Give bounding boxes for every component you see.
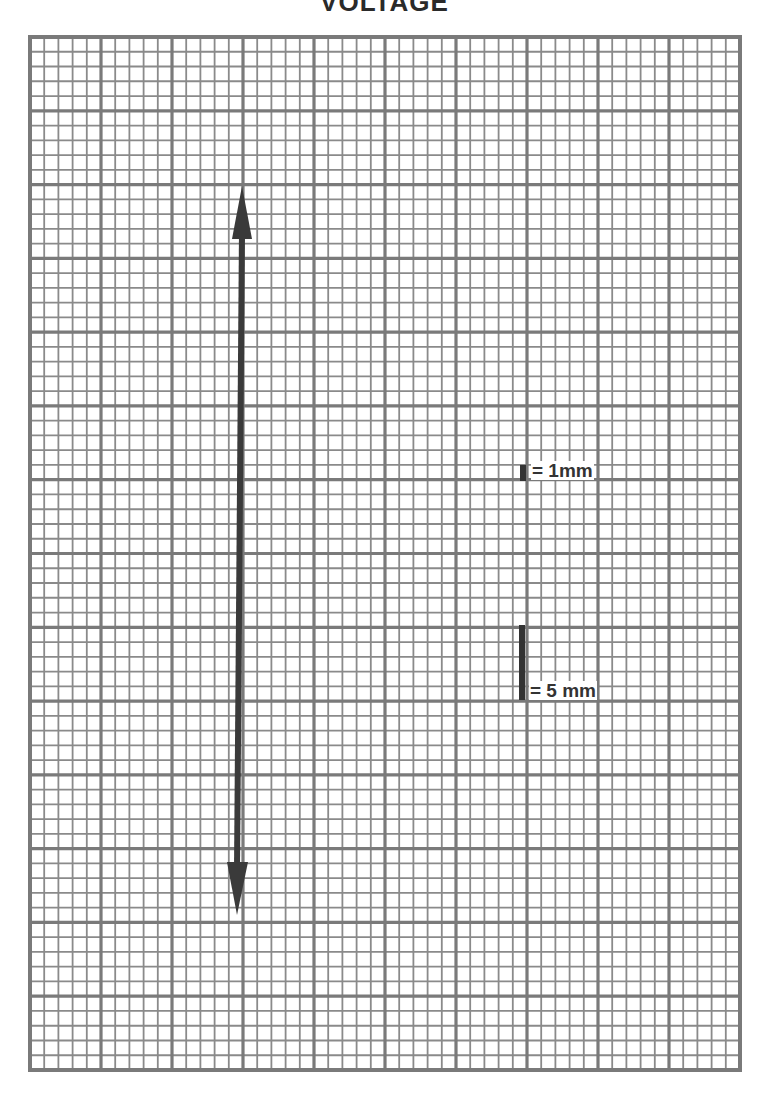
scale-marker-1mm [520,465,526,481]
scale-label-5mm: = 5 mm [529,681,597,700]
double-arrow-icon [227,186,252,915]
major-grid-lines [30,37,740,1070]
scale-marker-5mm [519,625,525,700]
arrow-head-up-icon [232,186,252,239]
ecg-grid-paper [0,0,769,1093]
scale-label-1mm: = 1mm [531,461,594,480]
